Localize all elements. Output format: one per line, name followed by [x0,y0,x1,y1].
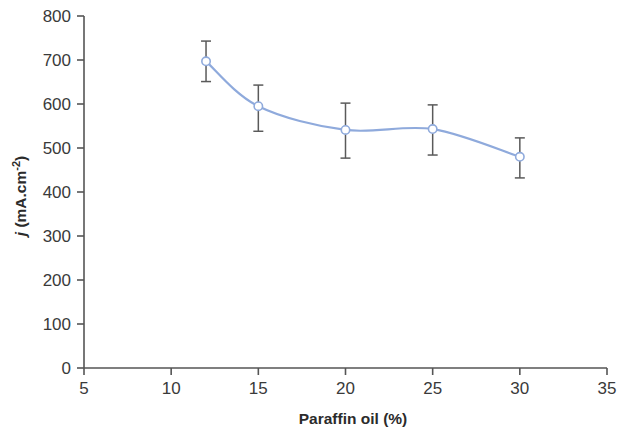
y-axis-tick-label: 0 [62,359,71,378]
y-axis-title-units: (mA.cm [12,171,29,232]
x-axis-tick-label: 10 [162,379,181,398]
y-axis-tick-label: 800 [43,7,71,26]
y-axis-tick-labels: 0100200300400500600700800 [43,7,71,378]
data-point [202,57,210,65]
chart-page: 0100200300400500600700800 5101520253035 … [0,0,620,432]
y-axis-tick-label: 400 [43,183,71,202]
data-point [428,125,436,133]
x-axis-tick-label: 25 [423,379,442,398]
x-axis-tick-label: 20 [336,379,355,398]
data-point [254,102,262,110]
y-axis-tick-label: 600 [43,95,71,114]
y-axis-tick-label: 300 [43,227,71,246]
data-point [341,126,349,134]
line-chart: 0100200300400500600700800 5101520253035 … [0,0,620,432]
x-axis-tick-label: 5 [79,379,88,398]
x-axis-title: Paraffin oil (%) [299,410,408,427]
y-axis-tick-label: 700 [43,51,71,70]
x-axis-tick-label: 35 [598,379,617,398]
data-point [516,153,524,161]
x-axis-tick-label: 15 [249,379,268,398]
y-axis-tick-label: 100 [43,315,71,334]
y-axis-tick-label: 500 [43,139,71,158]
y-axis-title-exponent: -2 [10,161,22,171]
y-axis-tick-label: 200 [43,271,71,290]
y-axis-title-tail: ) [12,156,29,161]
x-axis-tick-label: 30 [510,379,529,398]
